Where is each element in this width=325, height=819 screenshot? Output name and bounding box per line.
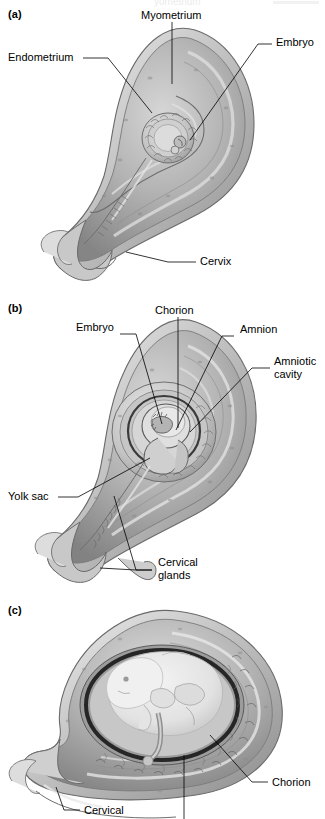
label-cervical-glands: Cervical glands bbox=[158, 556, 198, 581]
label-embryo: Embryo bbox=[76, 321, 114, 334]
label-chorion: Chorion bbox=[155, 304, 194, 317]
label-chorion: Chorion bbox=[272, 776, 311, 789]
label-amnion: Amnion bbox=[240, 323, 277, 336]
label-yolk-sac: Yolk sac bbox=[8, 490, 49, 503]
panel-b: (b) Chorion Embryo Amnion Amniotic cavit… bbox=[0, 290, 325, 595]
panel-b-illustration bbox=[0, 290, 325, 595]
panel-c-label: (c) bbox=[8, 605, 22, 616]
chorionic-sac-b bbox=[112, 382, 216, 482]
panel-a: (a) Myometrium Embryo Endometrium Cervix bbox=[0, 0, 325, 290]
uterus-development-figure: yometrium bbox=[0, 0, 325, 819]
panel-a-label: (a) bbox=[8, 9, 22, 20]
label-myometrium: Myometrium bbox=[141, 9, 202, 22]
label-endometrium: Endometrium bbox=[8, 51, 73, 64]
label-embryo: Embryo bbox=[276, 36, 314, 49]
panel-c: (c) Chorion Cervical bbox=[0, 595, 325, 819]
label-cervical: Cervical bbox=[84, 804, 124, 817]
panel-b-label: (b) bbox=[8, 303, 22, 314]
label-amniotic-cavity: Amniotic cavity bbox=[274, 355, 316, 380]
label-cervix: Cervix bbox=[200, 255, 231, 268]
